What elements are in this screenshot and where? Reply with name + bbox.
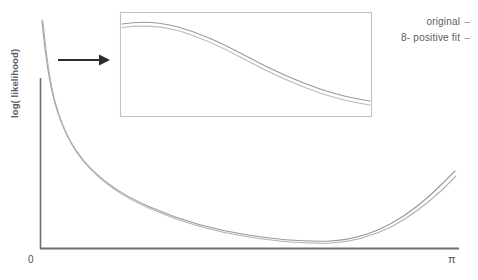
y-axis-label: log( likelihood) xyxy=(9,8,20,118)
legend-entry-positive-fit: 8- positive fit– xyxy=(401,30,470,46)
legend-label-original: original xyxy=(426,16,460,27)
legend-entry-original: original– xyxy=(401,14,470,30)
legend-line-sample-original: – xyxy=(464,14,470,30)
legend-label-positive-fit: 8- positive fit xyxy=(401,32,460,43)
legend-line-sample-positive-fit: – xyxy=(464,30,470,46)
figure-container: log( likelihood) 0 π original– 8- positi… xyxy=(0,0,478,280)
inset-border xyxy=(121,13,372,117)
inset-panel xyxy=(121,13,372,117)
x-tick-label-right: π xyxy=(448,253,456,265)
legend: original– 8- positive fit– xyxy=(401,14,470,46)
zoom-arrow xyxy=(58,55,110,66)
x-tick-label-left: 0 xyxy=(28,254,34,265)
arrow-head xyxy=(99,55,110,66)
